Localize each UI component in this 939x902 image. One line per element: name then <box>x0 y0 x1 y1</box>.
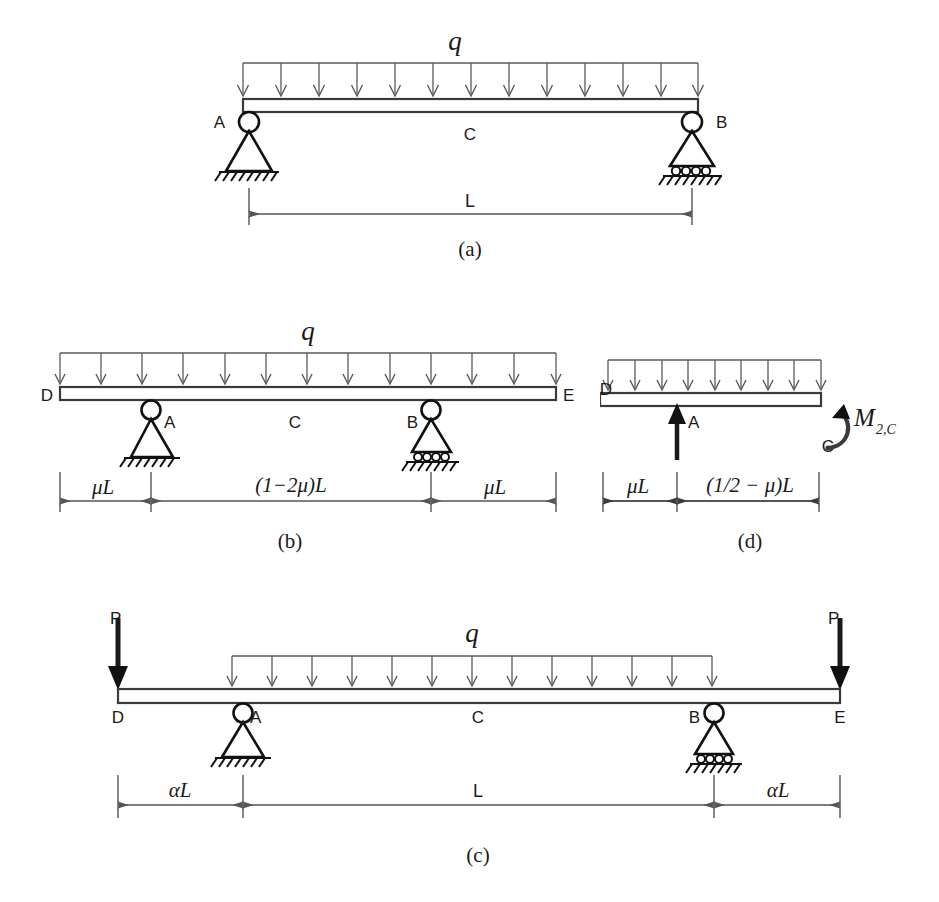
panel-c-label-E: E <box>834 708 845 727</box>
panel-b-dimension-left-label: μL <box>91 475 114 499</box>
panel-d-reaction-arrow-A <box>668 403 686 460</box>
panel-b-label-B: B <box>407 413 418 432</box>
panel-b: q <box>0 300 610 580</box>
panel-c: q P P <box>0 590 939 902</box>
panel-c-label-B: B <box>689 708 700 727</box>
panel-c-dimension-left-label: αL <box>169 778 192 802</box>
panel-b-pin-support-A <box>120 401 180 468</box>
load-arrow-group <box>55 353 561 384</box>
panel-b-load-label: q <box>301 316 315 346</box>
panel-a-load-label: q <box>448 26 462 56</box>
panel-d-dimension-chain: μL (1/2 − μ)L <box>603 472 819 512</box>
panel-a-label-C: C <box>464 125 476 144</box>
panel-d-distributed-load <box>603 360 826 390</box>
panel-b-caption: (b) <box>278 529 303 553</box>
panel-a-label-B: B <box>716 113 727 132</box>
panel-d-dimension-right-label: (1/2 − μ)L <box>706 473 794 497</box>
panel-a-caption: (a) <box>458 237 481 261</box>
panel-a-dimension-L-label: L <box>465 191 475 211</box>
panel-b-roller-support-B <box>402 401 459 472</box>
panel-c-label-D: D <box>112 708 124 727</box>
panel-b-beam <box>60 387 556 400</box>
panel-a-beam <box>243 99 698 112</box>
panel-c-load-label: q <box>465 618 479 648</box>
panel-b-label-C: C <box>289 413 301 432</box>
figure-root: q <box>0 0 939 902</box>
panel-b-dimension-chain: μL (1−2μ)L μL <box>60 472 556 512</box>
panel-d-moment-label-subscript: 2,C <box>876 422 897 437</box>
panel-d-beam <box>600 393 821 406</box>
panel-c-dimension-mid-label: L <box>473 781 483 801</box>
panel-a-label-A: A <box>214 113 226 132</box>
panel-c-dimension-right-label: αL <box>767 778 790 802</box>
panel-a-distributed-load <box>238 63 704 96</box>
panel-d-moment-label-base: M <box>853 404 876 431</box>
panel-b-label-A: A <box>164 413 176 432</box>
panel-d-label-D: D <box>600 380 612 399</box>
panel-d: D C A M 2,C μL (1/2 − μ)L ( <box>600 300 939 580</box>
panel-b-label-D: D <box>41 386 53 405</box>
panel-c-label-C: C <box>472 708 484 727</box>
panel-d-moment-label: M 2,C <box>853 404 897 437</box>
panel-b-distributed-load <box>55 353 561 384</box>
panel-b-dimension-mid-label: (1−2μ)L <box>255 473 326 497</box>
panel-a-roller-support-B <box>659 112 722 185</box>
panel-c-pin-support-A <box>211 704 271 768</box>
load-arrow-group <box>238 63 704 96</box>
load-arrow-group <box>603 360 826 390</box>
panel-c-caption: (c) <box>466 843 489 867</box>
panel-c-beam <box>118 689 840 703</box>
panel-d-label-A: A <box>688 413 700 432</box>
panel-d-dimension-left-label: μL <box>626 474 649 498</box>
load-arrow-group <box>227 656 717 686</box>
panel-c-distributed-load <box>227 656 717 686</box>
panel-c-point-load-left-arrow <box>108 618 128 690</box>
panel-b-label-E: E <box>563 386 574 405</box>
panel-d-caption: (d) <box>738 529 763 553</box>
panel-a-dimension-L: L <box>249 188 692 225</box>
panel-c-point-load-right-arrow <box>830 618 850 690</box>
panel-c-dimension-chain: αL L αL <box>118 775 840 818</box>
panel-a: q <box>0 0 939 290</box>
panel-b-dimension-right-label: μL <box>483 475 506 499</box>
